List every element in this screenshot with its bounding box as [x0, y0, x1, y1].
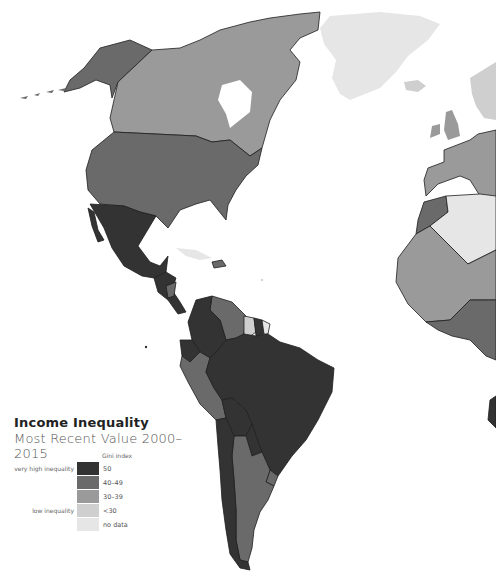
legend-swatch: [77, 476, 99, 490]
legend-header: Gini index: [102, 452, 132, 459]
legend-item-low: low inequality <30: [14, 504, 204, 518]
region-ireland: [430, 124, 440, 138]
legend-label: 40–49: [103, 479, 123, 487]
legend-swatch: [77, 490, 99, 504]
map-legend: Income Inequality Most Recent Value 2000…: [14, 415, 204, 461]
region-aleutians: [20, 88, 66, 99]
legend-swatch: [77, 462, 99, 476]
legend-description: very high inequality: [14, 465, 74, 472]
legend-label: <30: [103, 507, 117, 515]
region-cuba: [176, 248, 212, 260]
region-iceland: [404, 80, 426, 92]
legend-item-very-high: very high inequality 50: [14, 462, 204, 476]
island-galapagos: [145, 346, 147, 348]
region-scandinavia: [470, 62, 496, 120]
island-caribbean: [261, 279, 263, 281]
map-title: Income Inequality: [14, 415, 204, 430]
legend-item-medium: 30–39: [14, 490, 204, 504]
legend-item-no-data: no data: [14, 518, 204, 532]
legend-swatch: [77, 504, 99, 518]
legend-item-high: 40–49: [14, 476, 204, 490]
legend-swatch: [77, 518, 99, 532]
legend-description: low inequality: [14, 507, 74, 514]
legend-label: no data: [103, 521, 128, 529]
legend-label: 50: [103, 465, 111, 473]
region-hispaniola: [212, 260, 226, 268]
region-uk: [444, 110, 460, 140]
region-southern-africa: [488, 396, 496, 428]
region-western-europe: [424, 130, 496, 200]
legend-label: 30–39: [103, 493, 123, 501]
